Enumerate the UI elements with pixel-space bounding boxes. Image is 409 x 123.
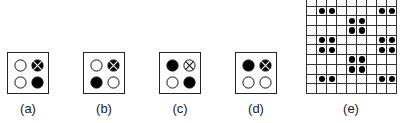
crossed-filled-circle-icon (31, 59, 44, 72)
grid-cell (347, 55, 357, 65)
empty-circle-icon (107, 76, 120, 89)
dot-icon (329, 76, 336, 83)
grid-cell (367, 26, 377, 36)
dot-icon (389, 76, 396, 83)
dot-icon (379, 76, 386, 83)
grid-cell (387, 35, 397, 45)
grid-cell (327, 35, 337, 45)
empty-circle-icon (14, 76, 27, 89)
dot-icon (389, 8, 396, 15)
grid-cell (377, 84, 387, 94)
grid-cell (387, 16, 397, 26)
dot-grid (306, 0, 397, 94)
dot-icon (329, 47, 336, 54)
grid-cell (307, 64, 317, 74)
grid-cell (367, 74, 377, 84)
grid-cell (367, 35, 377, 45)
grid-cell (377, 64, 387, 74)
dot-icon (359, 18, 366, 25)
filled-circle-icon (166, 59, 179, 72)
filled-circle-icon (242, 59, 255, 72)
grid-cell (307, 74, 317, 84)
panel-label-b: (b) (79, 101, 129, 116)
grid-cell (317, 55, 327, 65)
dot-icon (379, 37, 386, 44)
dot-icon (319, 8, 326, 15)
grid-cell (327, 64, 337, 74)
dot-icon (349, 66, 356, 73)
grid-cell (367, 55, 377, 65)
grid-cell (367, 45, 377, 55)
panel-label-d: (d) (231, 101, 281, 116)
grid-cell (337, 6, 347, 16)
grid-cell (377, 35, 387, 45)
dot-icon (349, 18, 356, 25)
grid-cell (357, 35, 367, 45)
grid-cell (357, 16, 367, 26)
grid-cell (327, 16, 337, 26)
filled-circle-icon (183, 76, 196, 89)
grid-cell (347, 45, 357, 55)
grid-cell (327, 45, 337, 55)
grid-cell (367, 16, 377, 26)
crossed-filled-circle-icon (107, 59, 120, 72)
grid-cell (327, 74, 337, 84)
grid-cell (377, 45, 387, 55)
grid-cell (317, 64, 327, 74)
grid-cell (307, 35, 317, 45)
grid-cell (347, 6, 357, 16)
grid-cell (387, 84, 397, 94)
grid-cell (377, 55, 387, 65)
grid-cell (317, 26, 327, 36)
grid-cell (317, 84, 327, 94)
grid-cell (307, 84, 317, 94)
panel-label-e: (e) (326, 101, 376, 116)
grid-cell (337, 45, 347, 55)
grid-cell (327, 84, 337, 94)
grid-cell (387, 45, 397, 55)
grid-cell (377, 26, 387, 36)
grid-cell (337, 64, 347, 74)
grid-cell (337, 55, 347, 65)
panel-box-c (159, 52, 201, 94)
dot-icon (329, 37, 336, 44)
grid-cell (357, 6, 367, 16)
empty-circle-icon (259, 76, 272, 89)
grid-cell (307, 55, 317, 65)
dot-icon (379, 47, 386, 54)
grid-cell (317, 45, 327, 55)
grid-cell (317, 16, 327, 26)
grid-cell (357, 26, 367, 36)
panel-label-a: (a) (3, 101, 53, 116)
grid-cell (307, 26, 317, 36)
grid-cell (357, 45, 367, 55)
empty-circle-icon (14, 59, 27, 72)
grid-cell (307, 6, 317, 16)
filled-circle-icon (90, 76, 103, 89)
dot-icon (359, 27, 366, 34)
grid-cell (307, 45, 317, 55)
panel-label-c: (c) (155, 101, 205, 116)
panel-box-a (7, 52, 49, 94)
dot-icon (319, 76, 326, 83)
empty-circle-icon (90, 59, 103, 72)
grid-cell (387, 74, 397, 84)
grid-cell (377, 6, 387, 16)
grid-cell (317, 74, 327, 84)
dot-icon (379, 8, 386, 15)
grid-cell (317, 35, 327, 45)
grid-cell (347, 74, 357, 84)
empty-circle-icon (166, 76, 179, 89)
panel-box-b (83, 52, 125, 94)
dot-icon (319, 37, 326, 44)
grid-cell (327, 26, 337, 36)
crossed-filled-circle-icon (259, 59, 272, 72)
dot-icon (389, 37, 396, 44)
dot-icon (319, 47, 326, 54)
grid-cell (347, 26, 357, 36)
grid-cell (387, 6, 397, 16)
grid-cell (357, 64, 367, 74)
grid-cell (357, 84, 367, 94)
grid-cell (337, 16, 347, 26)
grid-cell (377, 16, 387, 26)
